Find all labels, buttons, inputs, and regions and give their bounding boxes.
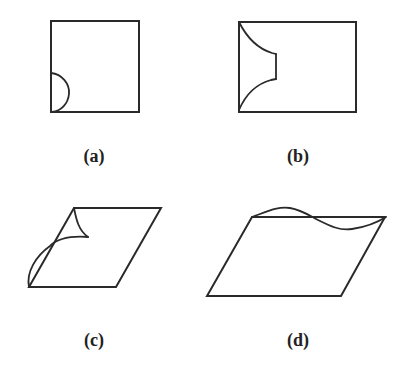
panel-c xyxy=(28,208,161,287)
panel-b xyxy=(239,22,356,112)
panel-d-parallelogram xyxy=(207,217,385,296)
panel-b-upper-curve xyxy=(239,22,276,54)
panel-d-label: (d) xyxy=(287,330,309,351)
panel-a-square xyxy=(51,21,139,112)
panel-b-rectangle xyxy=(239,22,356,112)
panel-b-lower-curve xyxy=(239,79,276,110)
figure-canvas xyxy=(0,0,406,376)
panel-b-label: (b) xyxy=(287,146,309,167)
panel-c-label: (c) xyxy=(84,330,104,351)
panel-c-curl-lower xyxy=(28,237,88,287)
panel-a xyxy=(51,21,139,112)
panel-d xyxy=(207,208,386,296)
panel-c-curl-upper xyxy=(74,208,88,237)
panel-a-semicircle-notch xyxy=(51,73,69,112)
panel-a-label: (a) xyxy=(84,146,105,167)
panel-d-wave xyxy=(252,208,386,230)
